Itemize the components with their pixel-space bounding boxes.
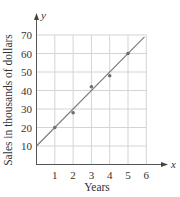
y-tick-label: 20	[21, 122, 33, 134]
y-tick-label: 10	[21, 140, 33, 152]
x-tick-labels: 123456	[52, 169, 150, 181]
x-tick-label: 4	[107, 169, 113, 181]
chart: 123456 10203040506070 x y Years Sales in…	[0, 0, 180, 197]
y-tick-label: 30	[21, 103, 33, 115]
x-tick-label: 1	[52, 169, 58, 181]
y-tick-label: 50	[21, 66, 33, 78]
data-point	[126, 52, 130, 56]
grid	[37, 35, 147, 165]
y-tick-label: 40	[21, 85, 33, 97]
y-tick-label: 60	[21, 48, 33, 60]
data-point	[90, 85, 94, 89]
x-axis-title: Years	[84, 181, 110, 193]
x-tick-label: 6	[144, 169, 150, 181]
y-tick-labels: 10203040506070	[21, 29, 33, 152]
y-axis-variable: y	[40, 9, 46, 21]
data-point	[53, 126, 57, 130]
x-tick-label: 5	[125, 169, 131, 181]
x-axis-arrow-icon	[161, 162, 168, 167]
y-axis-arrow-icon	[34, 13, 39, 20]
y-tick-label: 70	[21, 29, 33, 41]
data-point	[71, 111, 75, 115]
data-point	[108, 74, 112, 78]
x-axis-variable: x	[170, 158, 176, 170]
y-axis-title: Sales in thousands of dollars	[2, 34, 14, 166]
x-tick-label: 2	[70, 169, 76, 181]
x-tick-label: 3	[89, 169, 95, 181]
